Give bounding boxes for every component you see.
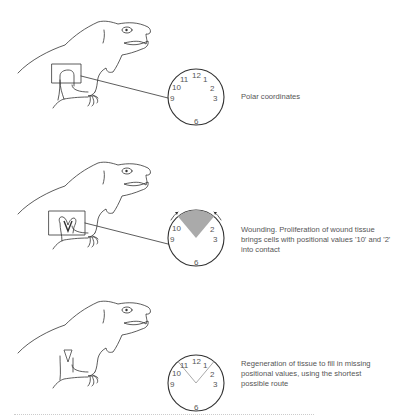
caption-intact: Polar coordinates	[241, 92, 391, 102]
svg-text:9: 9	[170, 380, 175, 389]
svg-text:3: 3	[213, 380, 218, 389]
clock-wounding: 2 3 6 9 10	[168, 210, 224, 267]
panel-intact: 12 1 2 3 6 9 10 11	[18, 21, 224, 126]
svg-text:6: 6	[194, 258, 199, 267]
svg-text:11: 11	[180, 75, 189, 84]
svg-text:10: 10	[172, 83, 181, 92]
limb-regenerating	[60, 356, 73, 380]
svg-text:10: 10	[172, 369, 181, 378]
svg-text:6: 6	[194, 403, 199, 412]
clock-intact: 12 1 2 3 6 9 10 11	[168, 69, 224, 126]
svg-text:2: 2	[210, 370, 215, 379]
svg-text:10: 10	[172, 224, 181, 233]
svg-text:1: 1	[203, 75, 208, 84]
lizard-drawing	[18, 162, 150, 249]
panel-regeneration: 12 1 2 3 6 9 10 11	[18, 301, 224, 412]
wound-sector	[178, 210, 214, 238]
svg-text:2: 2	[210, 225, 215, 234]
panel-wounding: 2 3 6 9 10	[18, 162, 224, 267]
figure-canvas: 12 1 2 3 6 9 10 11 2 3 6 9 10	[0, 0, 394, 419]
wound-mark	[64, 221, 72, 231]
svg-text:12: 12	[192, 71, 201, 80]
svg-text:11: 11	[180, 361, 189, 370]
connector-line	[81, 76, 168, 98]
lizard-drawing	[18, 301, 150, 388]
svg-text:2: 2	[210, 84, 215, 93]
truncated-text-line	[14, 414, 314, 419]
lizard-drawing	[18, 21, 150, 108]
caption-regeneration: Regeneration of tissue to fill in missin…	[241, 359, 391, 389]
highlight-box	[52, 64, 81, 83]
regenerating-mark	[64, 350, 72, 362]
clock-regeneration: 12 1 2 3 6 9 10 11	[168, 355, 224, 412]
svg-text:9: 9	[170, 235, 175, 244]
svg-text:1: 1	[203, 361, 208, 370]
caption-wounding: Wounding. Proliferation of wound tissue …	[241, 225, 391, 255]
svg-text:9: 9	[170, 94, 175, 103]
svg-text:12: 12	[192, 357, 201, 366]
svg-text:3: 3	[213, 94, 218, 103]
svg-text:3: 3	[213, 235, 218, 244]
svg-text:6: 6	[194, 117, 199, 126]
